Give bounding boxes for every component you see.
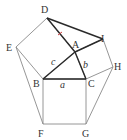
- square-badE: [16, 18, 75, 79]
- square-achi: [75, 39, 113, 79]
- label-side-a: a: [60, 79, 65, 90]
- geometry-diagram: D I A E H B C F G a b c: [0, 0, 127, 140]
- label-h: H: [114, 61, 121, 72]
- label-c: C: [88, 78, 95, 89]
- label-a: A: [72, 39, 80, 50]
- label-d: D: [41, 4, 48, 15]
- label-side-b: b: [83, 59, 88, 70]
- label-i: I: [101, 33, 104, 44]
- segment-hg: [86, 67, 113, 124]
- label-g: G: [82, 128, 89, 139]
- label-e: E: [6, 42, 12, 53]
- label-b: B: [33, 78, 40, 89]
- label-side-c: c: [51, 56, 56, 67]
- label-f: F: [38, 128, 44, 139]
- side-c: [43, 52, 75, 79]
